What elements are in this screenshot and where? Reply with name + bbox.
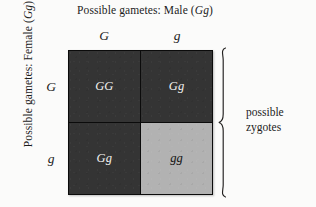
- female-gametes-axis-title-suffix: ): [22, 1, 34, 5]
- genotype-label: Gg: [169, 79, 185, 94]
- possible-zygotes-label: possible zygotes: [246, 105, 312, 134]
- row-header-female-allele-2: g: [38, 151, 64, 167]
- genotype-label: GG: [95, 79, 113, 94]
- female-gametes-axis-title-prefix: Possible gametes: Female (: [22, 19, 34, 147]
- male-gametes-axis-title: Possible gametes: Male (Gg): [0, 4, 290, 16]
- female-gametes-axis-title: Possible gametes: Female (Gg): [22, 0, 34, 154]
- female-genotype-alleles: Gg: [22, 5, 34, 19]
- male-genotype-alleles: Gg: [195, 4, 209, 16]
- row-header-female-allele-1: G: [38, 79, 64, 95]
- column-header-male-allele-2: g: [141, 28, 213, 44]
- genotype-label: Gg: [97, 151, 113, 166]
- punnett-cell-heterozygous-bottom-left: Gg: [69, 123, 140, 194]
- column-header-male-allele-1: G: [68, 28, 140, 44]
- punnett-square-figure: Possible gametes: Male (Gg) Possible gam…: [0, 0, 316, 207]
- genotype-label: gg: [170, 151, 183, 166]
- male-gametes-axis-title-suffix: ): [209, 4, 213, 16]
- male-gametes-axis-title-prefix: Possible gametes: Male (: [77, 4, 195, 16]
- possible-zygotes-label-line2: zygotes: [246, 120, 312, 135]
- possible-zygotes-label-line1: possible: [246, 105, 312, 120]
- curly-brace-icon: [218, 46, 238, 199]
- punnett-cell-homozygous-recessive: gg: [141, 123, 212, 194]
- punnett-grid: GG Gg Gg gg: [68, 50, 213, 195]
- punnett-cell-heterozygous-top-right: Gg: [141, 51, 212, 122]
- punnett-cell-homozygous-dominant: GG: [69, 51, 140, 122]
